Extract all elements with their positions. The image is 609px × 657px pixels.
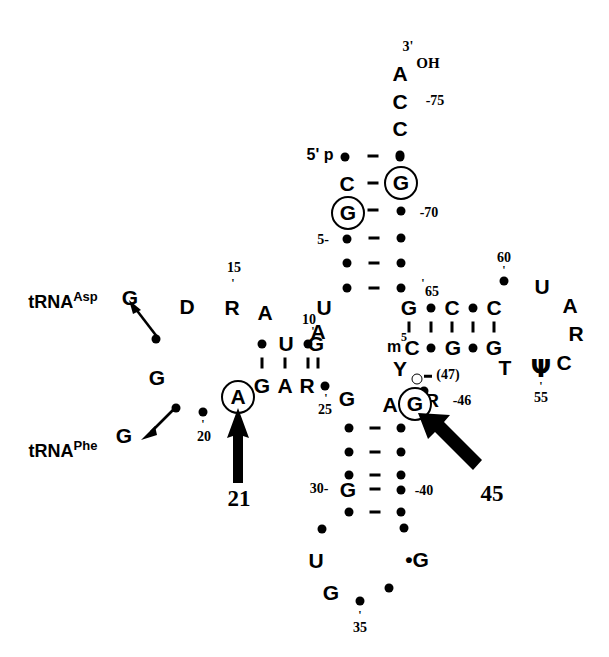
hbond-ac2 [370, 451, 381, 454]
arrow-phe [137, 404, 179, 442]
base-dot-6 [343, 259, 352, 268]
vbond-d2 [284, 358, 287, 369]
arrow-45 [418, 408, 498, 480]
number-47: (47) [436, 367, 459, 383]
hbond-47 [424, 375, 432, 378]
base-dot-72 [396, 153, 405, 162]
number-46: -46 [453, 393, 472, 409]
base-c75: C [392, 91, 407, 112]
base-t-tloop: T [499, 357, 512, 378]
hbond-7 [369, 287, 380, 290]
base-dot-tstem-t2 [427, 304, 436, 313]
base-dot-tstem-t4 [469, 304, 478, 313]
base-star-g: •G [405, 549, 429, 570]
base-g30: G [340, 479, 356, 500]
trna-cloverleaf-diagram: 3' A OH C -75 C 5' p C G -70 G 5- 65 ' U… [0, 0, 609, 657]
five-prime-label: 5' p [307, 146, 334, 164]
base-dot-ac-loop-r [400, 524, 409, 533]
number-15: 15 [227, 260, 241, 276]
base-dot-ac-r2 [397, 448, 406, 457]
base-c-tstem-t5: C [486, 297, 501, 318]
vbond-d4 [317, 358, 320, 369]
base-a-dloop: A [257, 302, 272, 323]
base-a76: A [392, 63, 407, 84]
hbond-ac1 [370, 427, 381, 430]
base-dot-67 [397, 284, 406, 293]
base-dot-ac-loop-r2 [385, 584, 394, 593]
base-dot-dstem-t1 [258, 340, 267, 349]
number-70: -70 [420, 205, 439, 221]
base-c2: C [339, 173, 354, 194]
base-g26: G [339, 388, 355, 409]
hbond-ac4 [370, 488, 381, 491]
vbond-t1 [408, 322, 411, 333]
base-m5c: C [404, 337, 419, 358]
base-g-dloop-mid: G [149, 367, 165, 388]
base-u-anticodon: U [308, 550, 323, 571]
arrow-21-label: 21 [228, 486, 251, 512]
base-a-dstem-b2: A [277, 375, 292, 396]
base-dot-68 [397, 259, 406, 268]
base-dot-20 [199, 408, 208, 417]
base-r15: R [224, 297, 239, 318]
base-dot-35 [356, 597, 365, 606]
base-g-tstem-b3: G [445, 337, 461, 358]
base-dot-tstem-b2 [427, 344, 436, 353]
base-g10: G [308, 333, 324, 354]
base-dot-ac-l5 [345, 508, 354, 517]
base-g-tstem-b5: G [486, 337, 502, 358]
arrow-21 [215, 408, 263, 483]
base-c-tloop: C [556, 352, 571, 373]
trna-phe-label: tRNAPhe [29, 438, 98, 462]
number-30: 30- [310, 481, 329, 497]
base-dot-tstem-b4 [469, 344, 478, 353]
base-dot-ac-r3 [397, 471, 406, 480]
vbond-t3 [451, 322, 454, 333]
base-dot-60 [500, 277, 509, 286]
vbond-t4 [472, 322, 475, 333]
base-a-varloop: A [382, 394, 397, 415]
trna-asp-label: tRNAAsp [28, 289, 98, 313]
circled-base-g71: G [384, 166, 418, 200]
base-dot-ac-l1 [345, 424, 354, 433]
arrow-45-label: 45 [481, 481, 504, 507]
base-c-tstem-t3: C [444, 297, 459, 318]
base-dot-1 [341, 153, 350, 162]
vbond-d3 [307, 358, 310, 369]
base-r-dstem-b3: R [299, 375, 314, 396]
base-dot-69 [397, 234, 406, 243]
base-dot-25 [321, 382, 330, 391]
base-dot-5 [343, 235, 352, 244]
base-dot-7 [343, 284, 352, 293]
number-65: 65 [425, 284, 439, 300]
base-g-tstem-t1: G [401, 297, 417, 318]
base-u-tloop: U [534, 276, 549, 297]
number-5: 5- [317, 232, 329, 248]
circled-base-g4: G [331, 196, 365, 230]
base-a-tloop: A [562, 295, 577, 316]
vbond-t2 [430, 322, 433, 333]
hbond-1 [368, 155, 379, 158]
hbond-ac5 [370, 511, 381, 514]
base-dot-40 [397, 486, 406, 495]
base-u8: U [316, 297, 331, 318]
arrow-asp [125, 300, 163, 342]
base-dot-ac-loop-l [318, 525, 327, 534]
number-40: -40 [415, 483, 434, 499]
open-dot-47 [412, 374, 423, 385]
hbond-3 [368, 209, 379, 212]
hbond-5 [369, 262, 380, 265]
base-d: D [179, 296, 194, 317]
base-y-varloop: Y [393, 358, 407, 379]
base-g-dstem-b1: G [254, 375, 270, 396]
base-dot-ac-r5 [397, 508, 406, 517]
base-m5c-prefix: m [387, 339, 401, 355]
base-c74: C [392, 118, 407, 139]
base-dot-70 [397, 207, 406, 216]
hbond-ac3 [370, 474, 381, 477]
base-g-anticodon: G [323, 582, 339, 603]
hbond-2 [368, 182, 379, 185]
hydroxyl-label: OH [416, 55, 439, 72]
base-dot-ac-l2 [345, 448, 354, 457]
number-75: -75 [426, 93, 445, 109]
